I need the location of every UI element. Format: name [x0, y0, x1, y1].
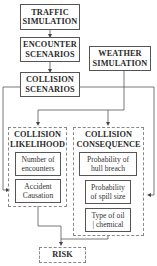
risk-label: RISK — [52, 250, 73, 260]
hull-breach-line1: Probability of — [87, 155, 129, 164]
causation-line2: Causation — [23, 191, 53, 200]
encounter-label-line1: ENCOUNTER — [23, 40, 77, 50]
consequence-title-line1: COLLISION — [74, 130, 143, 140]
consequence-title: COLLISION CONSEQUENCE — [74, 130, 143, 149]
risk-node: RISK — [39, 247, 86, 263]
collision-label-line2: SCENARIOS — [25, 85, 74, 95]
hull-breach-node: Probability of hull breach — [79, 152, 137, 176]
likelihood-title: COLLISION LIKELIHOOD — [9, 130, 66, 149]
causation-line1: Accident — [23, 182, 53, 191]
oil-chemical-type-node: Type of oil | chemical — [85, 208, 131, 232]
hull-breach-line2: hull breach — [87, 164, 129, 173]
spill-size-line2: of spill size — [90, 192, 125, 201]
consequence-title-line2: CONSEQUENCE — [74, 140, 143, 150]
encounters-line1: Number of — [21, 155, 54, 164]
spill-size-node: Probability of spill size — [85, 180, 131, 204]
traffic-label-line2: SIMULATION — [23, 17, 78, 27]
likelihood-title-line1: COLLISION — [9, 130, 66, 140]
oil-type-line1: Type of oil — [91, 211, 124, 220]
collision-label-line1: COLLISION — [25, 75, 74, 85]
collision-scenarios-node: COLLISION SCENARIOS — [20, 72, 80, 97]
accident-causation-node: Accident Causation — [15, 179, 61, 203]
encounter-label-line2: SCENARIOS — [23, 50, 77, 60]
weather-label-line1: WEATHER — [93, 49, 148, 59]
number-of-encounters-node: Number of encounters — [15, 152, 61, 176]
collision-consequence-group: COLLISION CONSEQUENCE Probability of hul… — [73, 127, 144, 236]
encounters-line2: encounters — [21, 164, 54, 173]
encounter-scenarios-node: ENCOUNTER SCENARIOS — [20, 37, 80, 62]
traffic-label-line1: TRAFFIC — [23, 8, 78, 18]
traffic-simulation-node: TRAFFIC SIMULATION — [20, 4, 80, 30]
spill-size-line1: Probability — [90, 183, 125, 192]
weather-label-line2: SIMULATION — [93, 59, 148, 69]
oil-type-line2: | chemical — [91, 220, 124, 229]
collision-likelihood-group: COLLISION LIKELIHOOD Number of encounter… — [8, 127, 67, 207]
likelihood-title-line2: LIKELIHOOD — [9, 140, 66, 150]
weather-simulation-node: WEATHER SIMULATION — [89, 46, 151, 71]
